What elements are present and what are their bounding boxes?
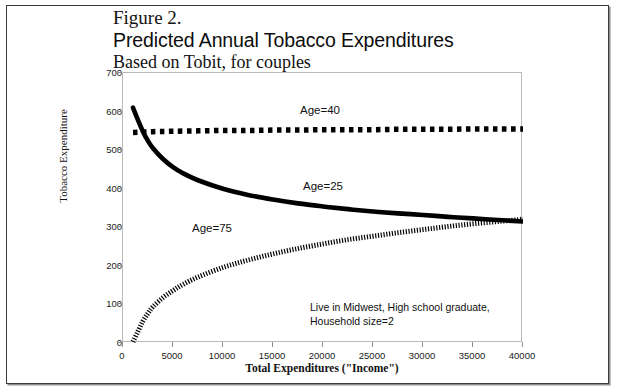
series-line-age-40: [133, 129, 523, 133]
x-tick-mark: [472, 342, 473, 347]
x-tick-mark: [422, 342, 423, 347]
series-line-age-25: [133, 108, 523, 222]
series-label-age-25: Age=25: [303, 180, 343, 192]
annotation-line-1: Live in Midwest, High school graduate,: [310, 300, 490, 314]
series-label-age-75: Age=75: [192, 222, 232, 234]
x-tick-mark: [372, 342, 373, 347]
y-axis-ticks: 0100200300400500600700: [78, 72, 122, 342]
series-label-age-40: Age=40: [300, 104, 340, 116]
figure-title-block: Figure 2. Predicted Annual Tobacco Expen…: [113, 7, 543, 73]
x-tick-mark: [322, 342, 323, 347]
chart-annotation: Live in Midwest, High school graduate, H…: [310, 300, 490, 328]
x-tick-mark: [272, 342, 273, 347]
figure-number-label: Figure 2.: [113, 7, 543, 28]
annotation-line-2: Household size=2: [310, 314, 490, 328]
figure-main-title: Predicted Annual Tobacco Expenditures: [113, 28, 543, 52]
y-axis-title: Tobacco Expenditure: [57, 76, 69, 236]
x-tick-mark: [122, 342, 123, 347]
x-tick-mark: [222, 342, 223, 347]
x-tick-label: 40000: [492, 350, 552, 361]
figure-subtitle: Based on Tobit, for couples: [113, 52, 543, 73]
x-tick-mark: [522, 342, 523, 347]
figure-root: Figure 2. Predicted Annual Tobacco Expen…: [0, 0, 617, 392]
x-axis-title: Total Expenditures ("Income"): [122, 362, 522, 374]
x-tick-mark: [172, 342, 173, 347]
